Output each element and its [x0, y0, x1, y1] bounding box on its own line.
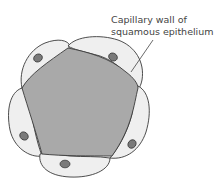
callout-label: Capillary wall of squamous epithelium	[111, 14, 214, 38]
label-line-1: Capillary wall of	[111, 14, 214, 26]
cell-bottom	[40, 153, 110, 177]
nucleus-bottom	[60, 160, 70, 168]
label-line-2: squamous epithelium	[111, 26, 214, 38]
